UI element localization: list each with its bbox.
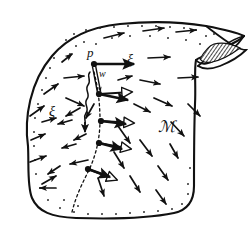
stipple-dot xyxy=(34,117,36,119)
stipple-dot xyxy=(35,173,37,175)
stipple-dot xyxy=(95,43,97,45)
stipple-dot xyxy=(199,43,201,45)
stipple-dot xyxy=(53,57,55,59)
stipple-dot xyxy=(101,213,103,215)
node-4 xyxy=(85,166,91,172)
label-xi-right: ξ xyxy=(127,52,133,67)
field-arrow xyxy=(148,57,170,58)
stipple-dot xyxy=(75,45,77,47)
stipple-dot xyxy=(85,29,87,31)
stipple-dot xyxy=(183,27,185,29)
stipple-dot xyxy=(129,35,131,37)
label-vector-w: w xyxy=(99,68,106,79)
figure-canvas: p w ξ ξ ℳ xyxy=(0,0,252,230)
stipple-dot xyxy=(37,103,39,105)
label-point-p: p xyxy=(86,45,94,60)
stipple-dot xyxy=(149,35,151,37)
stipple-dot xyxy=(49,67,51,69)
stipple-dot xyxy=(187,193,189,195)
stipple-dot xyxy=(155,25,157,27)
stipple-dot xyxy=(113,26,115,28)
manifold-body xyxy=(27,22,246,218)
node-p xyxy=(91,61,97,67)
stipple-dot xyxy=(65,39,67,41)
stipple-dot xyxy=(63,199,65,201)
stipple-dot xyxy=(33,131,35,133)
stipple-dot xyxy=(77,205,79,207)
stipple-dot xyxy=(45,77,47,79)
field-arrow xyxy=(178,77,198,78)
stipple-dot xyxy=(87,213,89,215)
stipple-dot xyxy=(169,26,171,28)
stipple-dot xyxy=(189,167,191,169)
stipple-dot xyxy=(141,25,143,27)
stipple-dot xyxy=(115,213,117,215)
stipple-dot xyxy=(171,208,173,210)
node-1 xyxy=(96,91,102,97)
manifold-vector-field-figure: p w ξ ξ ℳ xyxy=(0,0,252,230)
stipple-dot xyxy=(181,203,183,205)
stipple-dot xyxy=(59,207,61,209)
node-2 xyxy=(98,118,104,124)
stipple-dot xyxy=(185,39,187,41)
stipple-dot xyxy=(205,35,207,37)
stipple-dot xyxy=(187,183,189,185)
stipple-dot xyxy=(73,33,75,35)
stipple-dot xyxy=(167,37,169,39)
stipple-dot xyxy=(59,47,61,49)
stipple-dot xyxy=(157,210,159,212)
label-xi-left: ξ xyxy=(49,104,55,119)
stipple-dot xyxy=(129,212,131,214)
stipple-dot xyxy=(47,199,49,201)
stipple-dot xyxy=(143,211,145,213)
stipple-dot xyxy=(99,27,101,29)
stipple-dot xyxy=(83,41,85,43)
stipple-dot xyxy=(127,25,129,27)
node-3 xyxy=(96,140,102,146)
stipple-dot xyxy=(73,211,75,213)
stipple-dot xyxy=(213,33,215,35)
stipple-dot xyxy=(41,89,43,91)
stipple-dot xyxy=(33,145,35,147)
stipple-dot xyxy=(111,37,113,39)
